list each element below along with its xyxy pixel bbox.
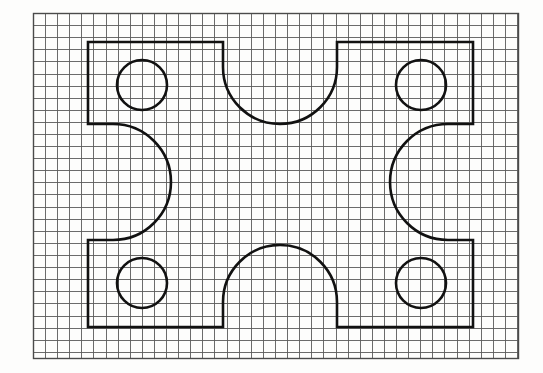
figure-svg bbox=[0, 0, 543, 373]
drawing-sheet bbox=[0, 0, 543, 373]
